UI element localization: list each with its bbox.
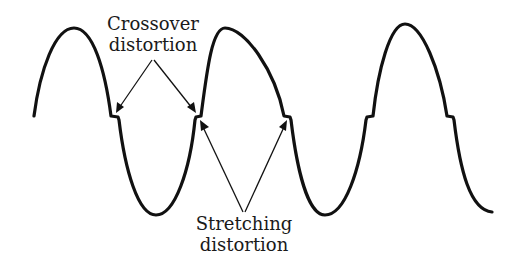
distortion-diagram: Crossover distortion Stretching distorti… [0, 0, 513, 264]
crossover-label-line1: Crossover [107, 13, 199, 34]
stretching-arrow-left [203, 127, 243, 212]
crossover-arrow-left [119, 60, 152, 108]
stretching-label-line2: distortion [200, 234, 289, 255]
stretching-label-line1: Stretching [196, 213, 293, 234]
crossover-arrow-right [154, 60, 192, 108]
crossover-arrowhead-left [116, 102, 124, 113]
distorted-waveform [34, 24, 492, 215]
stretching-arrow-right [245, 127, 284, 212]
crossover-label-line2: distortion [109, 34, 198, 55]
